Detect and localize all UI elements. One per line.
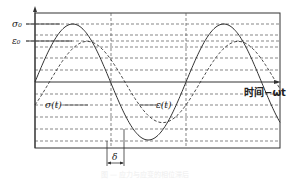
y-axis-arrow-icon: [33, 6, 37, 12]
delta-arrow-right-icon: [120, 162, 124, 165]
grid-lines: [35, 13, 280, 148]
figure-caption: 图 — 应力与应变的相位滞后: [101, 170, 189, 179]
epsilon0-label: ε₀: [12, 36, 21, 46]
plot-frame: [35, 13, 280, 148]
delta-arrow-left-icon: [107, 162, 111, 165]
epsilon-t-label: ε(t): [156, 100, 172, 110]
stress-strain-diagram: σ₀ ε₀ σ(t) ε(t) δ 时间−ωt 图 — 应力与应变的相位滞后: [0, 0, 291, 181]
sigma0-label: σ₀: [12, 19, 22, 29]
x-axis-label: 时间−ωt: [244, 86, 286, 98]
sigma-t-label: σ(t): [45, 100, 62, 110]
delta-label: δ: [112, 152, 117, 162]
